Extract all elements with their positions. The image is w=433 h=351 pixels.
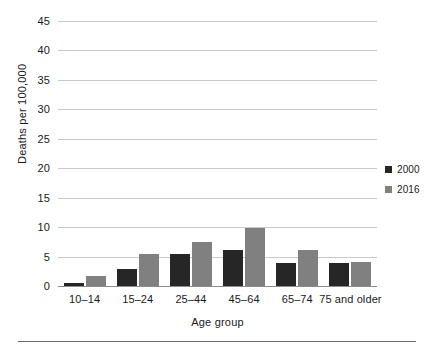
bar-2000-65–74 bbox=[276, 263, 296, 286]
y-tick-label: 10 bbox=[38, 221, 50, 233]
bar-2016-10–14 bbox=[86, 276, 106, 286]
bar-2016-65–74 bbox=[298, 250, 318, 286]
bar-groups: 10–1415–2425–4445–6465–7475 and older bbox=[58, 21, 377, 286]
bar-chart-figure: Deaths per 100,000 051015202530354045 10… bbox=[0, 0, 433, 351]
x-tick-label: 10–14 bbox=[69, 293, 100, 305]
bar-group: 45–64 bbox=[218, 21, 271, 286]
bar-2000-75 and older bbox=[329, 263, 349, 286]
legend-label: 2016 bbox=[397, 184, 420, 195]
bar-group: 10–14 bbox=[58, 21, 111, 286]
bar-2000-10–14 bbox=[64, 283, 84, 286]
x-tick-label: 15–24 bbox=[122, 293, 153, 305]
y-tick-label: 20 bbox=[38, 162, 50, 174]
legend-item-2000: 2000 bbox=[385, 164, 420, 175]
bar-2000-15–24 bbox=[117, 269, 137, 286]
x-tick-label: 45–64 bbox=[229, 293, 260, 305]
y-tick-label: 5 bbox=[44, 251, 50, 263]
legend-item-2016: 2016 bbox=[385, 184, 420, 195]
x-tick-label: 25–44 bbox=[175, 293, 206, 305]
bar-2016-45–64 bbox=[245, 228, 265, 286]
chart-legend: 20002016 bbox=[385, 164, 420, 204]
y-tick-label: 15 bbox=[38, 192, 50, 204]
x-tick-label: 65–74 bbox=[282, 293, 313, 305]
legend-label: 2000 bbox=[397, 164, 420, 175]
y-axis-title: Deaths per 100,000 bbox=[16, 64, 28, 164]
x-tick-label: 75 and older bbox=[319, 293, 381, 305]
bar-2016-15–24 bbox=[139, 254, 159, 286]
bar-2000-25–44 bbox=[170, 254, 190, 286]
legend-swatch-icon bbox=[385, 186, 392, 193]
x-axis-title: Age group bbox=[58, 316, 377, 328]
bar-group: 15–24 bbox=[111, 21, 164, 286]
footer-rule bbox=[18, 341, 416, 342]
axis-baseline bbox=[58, 286, 377, 287]
y-tick-label: 25 bbox=[38, 133, 50, 145]
y-tick-label: 45 bbox=[38, 15, 50, 27]
bar-2000-45–64 bbox=[223, 250, 243, 286]
bar-group: 65–74 bbox=[271, 21, 324, 286]
bar-2016-75 and older bbox=[351, 262, 371, 286]
bar-group: 25–44 bbox=[164, 21, 217, 286]
plot-area: 051015202530354045 10–1415–2425–4445–646… bbox=[58, 21, 377, 286]
y-tick-label: 40 bbox=[38, 44, 50, 56]
bar-2016-25–44 bbox=[192, 242, 212, 286]
y-tick-label: 0 bbox=[44, 280, 50, 292]
legend-swatch-icon bbox=[385, 166, 392, 173]
bar-group: 75 and older bbox=[324, 21, 377, 286]
y-tick-label: 35 bbox=[38, 74, 50, 86]
y-tick-label: 30 bbox=[38, 103, 50, 115]
